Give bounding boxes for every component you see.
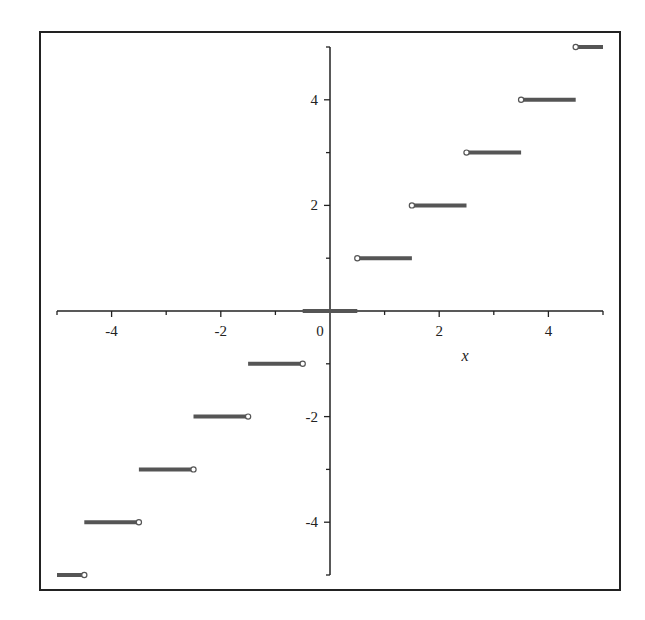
y-tick-label: -2 <box>306 409 319 425</box>
step-function-plot: -4-2024-4-224 x <box>0 0 645 620</box>
y-tick-label: -4 <box>306 514 319 530</box>
open-endpoint-marker <box>246 414 251 419</box>
open-endpoint-marker <box>355 256 360 261</box>
open-endpoint-marker <box>464 150 469 155</box>
x-tick-label: -4 <box>105 323 118 339</box>
open-endpoint-marker <box>191 467 196 472</box>
x-tick-label: 2 <box>435 323 443 339</box>
x-tick-label: -2 <box>215 323 228 339</box>
open-endpoint-marker <box>409 203 414 208</box>
y-tick-label: 2 <box>311 197 319 213</box>
open-endpoint-marker <box>573 44 578 49</box>
x-axis-title: x <box>460 347 468 364</box>
open-endpoint-marker <box>519 97 524 102</box>
y-tick-label: 4 <box>311 92 319 108</box>
open-endpoint-marker <box>82 572 87 577</box>
x-tick-label: 4 <box>545 323 553 339</box>
open-endpoint-marker <box>136 520 141 525</box>
open-endpoint-marker <box>300 361 305 366</box>
x-tick-label: 0 <box>316 323 324 339</box>
